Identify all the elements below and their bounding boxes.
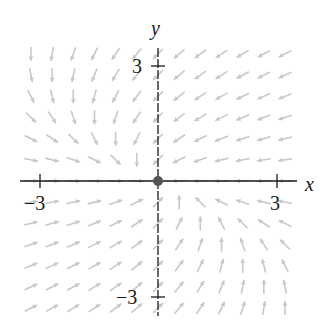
y-tick-label-pos3: 3 xyxy=(132,55,142,77)
arrow-head-icon xyxy=(261,280,266,284)
arrow-head-icon xyxy=(50,78,55,82)
arrow-head-icon xyxy=(198,216,203,220)
y-tick-label-neg3: −3 xyxy=(116,286,137,308)
arrow-head-icon xyxy=(240,259,245,263)
arrow-head-icon xyxy=(177,195,182,199)
equilibrium-point xyxy=(153,176,163,186)
x-tick-label-pos3: 3 xyxy=(270,192,280,214)
axes: x y −3 3 3 −3 xyxy=(20,17,314,316)
arrow-head-icon xyxy=(71,99,76,103)
y-axis-label: y xyxy=(149,17,160,40)
arrow-head-icon xyxy=(219,238,224,242)
arrow-head-icon xyxy=(29,57,34,61)
arrow-head-icon xyxy=(134,162,139,166)
x-tick-label-neg3: −3 xyxy=(24,192,45,214)
arrow-head-icon xyxy=(113,141,118,145)
vector-field-figure: x y −3 3 3 −3 xyxy=(0,0,335,323)
arrow-head-icon xyxy=(283,301,288,305)
arrow-head-icon xyxy=(92,120,97,124)
x-axis-label: x xyxy=(304,173,314,195)
